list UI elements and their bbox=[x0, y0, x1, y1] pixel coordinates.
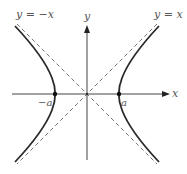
asymptote-label-pos: y = x bbox=[153, 8, 183, 21]
vertex-a-dot bbox=[117, 92, 121, 96]
x-axis-arrow-icon bbox=[162, 91, 170, 97]
y-axis-label: y bbox=[83, 10, 91, 23]
asymptote-label-neg: y = −x bbox=[15, 8, 55, 21]
y-axis-arrow-icon bbox=[84, 25, 90, 33]
origin-dot bbox=[86, 93, 88, 95]
vertex-neg-a-dot bbox=[53, 92, 57, 96]
hyperbola-diagram: y = −x y = x y x −a a bbox=[0, 0, 187, 174]
vertex-label-a: a bbox=[121, 97, 127, 108]
vertex-label-neg-a: −a bbox=[38, 97, 52, 108]
x-axis-label: x bbox=[172, 87, 179, 100]
